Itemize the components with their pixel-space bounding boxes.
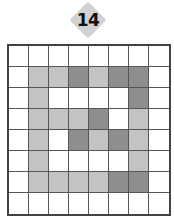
grid-cell[interactable] — [109, 67, 129, 88]
grid-cell[interactable] — [9, 109, 29, 130]
grid-cell[interactable] — [29, 130, 49, 151]
puzzle-grid — [7, 44, 171, 216]
grid-cell[interactable] — [89, 172, 109, 193]
grid-cell[interactable] — [89, 67, 109, 88]
grid-cell[interactable] — [69, 67, 89, 88]
grid-cell[interactable] — [29, 193, 49, 214]
grid-cell[interactable] — [9, 67, 29, 88]
grid-cell[interactable] — [129, 172, 149, 193]
grid-cell[interactable] — [109, 172, 129, 193]
puzzle-number: 14 — [64, 8, 112, 32]
grid-cell[interactable] — [149, 172, 169, 193]
grid-cell[interactable] — [29, 46, 49, 67]
grid-cell[interactable] — [129, 193, 149, 214]
grid-cell[interactable] — [49, 151, 69, 172]
grid-cell[interactable] — [149, 130, 169, 151]
grid-cell[interactable] — [89, 46, 109, 67]
grid-cell[interactable] — [29, 88, 49, 109]
grid-cell[interactable] — [9, 46, 29, 67]
grid-cell[interactable] — [9, 151, 29, 172]
grid-cell[interactable] — [69, 46, 89, 67]
grid-cell[interactable] — [89, 193, 109, 214]
grid-cell[interactable] — [49, 172, 69, 193]
grid-cell[interactable] — [129, 109, 149, 130]
grid-cell[interactable] — [69, 151, 89, 172]
grid-cell[interactable] — [9, 130, 29, 151]
grid-cell[interactable] — [29, 172, 49, 193]
grid-cell[interactable] — [29, 151, 49, 172]
grid-cell[interactable] — [129, 151, 149, 172]
grid-cell[interactable] — [69, 130, 89, 151]
grid-cell[interactable] — [69, 172, 89, 193]
grid-cell[interactable] — [109, 193, 129, 214]
grid-cell[interactable] — [129, 130, 149, 151]
grid-cell[interactable] — [149, 193, 169, 214]
grid-cell[interactable] — [49, 46, 69, 67]
grid-cell[interactable] — [149, 67, 169, 88]
grid-cell[interactable] — [109, 151, 129, 172]
grid-cell[interactable] — [129, 46, 149, 67]
grid-cell[interactable] — [29, 109, 49, 130]
grid-cell[interactable] — [89, 88, 109, 109]
grid-cell[interactable] — [69, 109, 89, 130]
grid-cell[interactable] — [9, 193, 29, 214]
grid-cell[interactable] — [29, 67, 49, 88]
grid-cell[interactable] — [129, 88, 149, 109]
grid-cell[interactable] — [109, 109, 129, 130]
grid-cell[interactable] — [149, 151, 169, 172]
grid-cell[interactable] — [69, 88, 89, 109]
grid-cell[interactable] — [49, 88, 69, 109]
grid-cell[interactable] — [109, 130, 129, 151]
grid-cell[interactable] — [109, 46, 129, 67]
grid-cell[interactable] — [49, 130, 69, 151]
grid-cell[interactable] — [149, 109, 169, 130]
grid-cell[interactable] — [69, 193, 89, 214]
grid-cell[interactable] — [89, 109, 109, 130]
grid-cell[interactable] — [149, 88, 169, 109]
grid-cell[interactable] — [49, 193, 69, 214]
grid-cell[interactable] — [89, 130, 109, 151]
grid-cell[interactable] — [49, 109, 69, 130]
grid-cell[interactable] — [149, 46, 169, 67]
grid-cell[interactable] — [89, 151, 109, 172]
grid-cell[interactable] — [49, 67, 69, 88]
grid-cell[interactable] — [129, 67, 149, 88]
grid-cell[interactable] — [9, 172, 29, 193]
grid-cell[interactable] — [9, 88, 29, 109]
grid-cell[interactable] — [109, 88, 129, 109]
